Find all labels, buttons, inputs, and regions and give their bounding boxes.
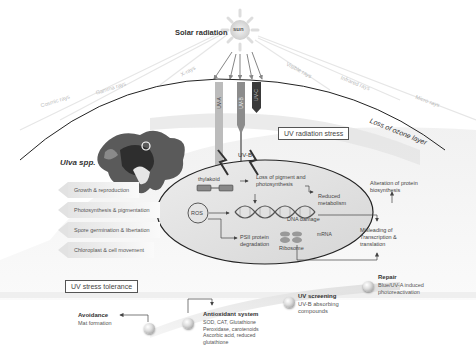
avoidance-node-icon <box>144 323 155 334</box>
uv-screening-detail: UV-B absorbing compounds <box>298 301 348 315</box>
effect-spore: Spore germination & libertation <box>58 222 160 238</box>
organism-name: Ulva spp. <box>60 158 96 167</box>
repair-detail: Blue/UV-A induced photoreactivation <box>378 282 438 296</box>
antioxidant-title: Antioxidant system <box>203 311 258 317</box>
uv-radiation-stress-box: UV radiation stress <box>278 127 349 140</box>
protein-alteration-label: Alteration of protein biosynthesis <box>370 180 425 194</box>
effect-chloroplast: Chloroplast & cell movement <box>58 242 154 258</box>
repair-title: Repair <box>378 274 397 280</box>
thylakoid-label: thylakoid <box>198 176 220 182</box>
antioxidant-node-icon <box>183 318 194 329</box>
reduced-metabolism-label: Reduced metabolism <box>318 193 348 207</box>
repair-node-icon <box>363 281 374 292</box>
mrna-label: mRNA <box>317 231 332 237</box>
uvb-label: UV-B <box>238 152 252 158</box>
left-arrow-icon <box>58 202 68 218</box>
antioxidant-detail: SOD, CAT, Glutathione Peroxidase, carote… <box>203 319 268 345</box>
sun-label: sun <box>233 26 244 32</box>
effect-photosynthesis: Photosynthesis & pigmentation <box>58 202 160 218</box>
effect-growth: Growth & reproduction <box>58 182 139 198</box>
ros-label: ROS <box>191 210 203 216</box>
psii-degradation-label: PSII protein degradation <box>240 234 278 248</box>
solar-radiation-title: Solar radiation <box>175 28 228 37</box>
avoidance-title: Avoidance <box>78 312 108 318</box>
pigment-loss-label: Loss of pigment and photosynthesis <box>256 174 316 188</box>
avoidance-detail: Mat formation <box>78 320 112 326</box>
misleading-transcription-label: Misleading of Transcription & translatio… <box>360 227 405 248</box>
uv-screening-node-icon <box>284 297 295 308</box>
uv-stress-tolerance-box: UV stress tolerance <box>65 280 138 293</box>
left-arrow-icon <box>58 242 68 258</box>
uvc-label: UV-C <box>253 89 259 101</box>
dna-damage-label: DNA damage <box>287 216 320 222</box>
ribosome-label: Ribosome <box>279 245 304 251</box>
left-arrow-icon <box>58 222 68 238</box>
left-arrow-icon <box>58 182 68 198</box>
uva-label: UV-A <box>216 97 222 109</box>
uv-screening-title: UV screening <box>298 293 336 299</box>
uvb-band-label: UV-B <box>238 97 244 109</box>
